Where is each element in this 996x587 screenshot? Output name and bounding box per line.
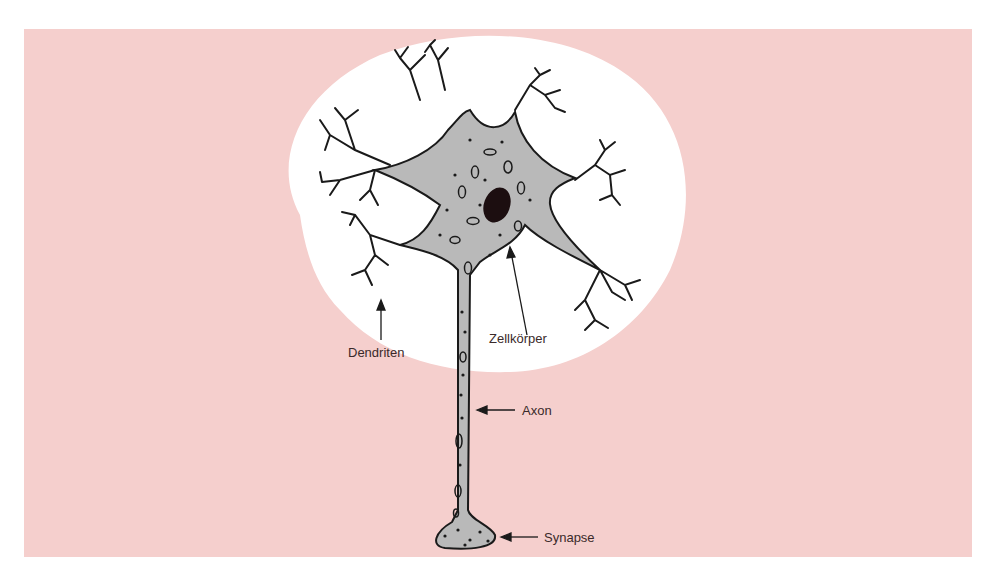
label-axon: Axon: [522, 403, 552, 418]
label-dendrites: Dendriten: [348, 345, 404, 360]
label-synapse: Synapse: [544, 530, 595, 545]
label-cell-body: Zellkörper: [489, 331, 547, 346]
neuron-diagram: [0, 0, 996, 587]
